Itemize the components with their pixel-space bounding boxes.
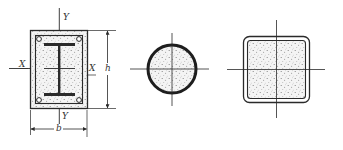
concrete-filled-circular-tube — [130, 33, 209, 106]
composite-sections-diagram — [0, 0, 343, 150]
rebar-top-left — [37, 37, 42, 42]
rebar-bottom-left — [37, 98, 42, 103]
rebar-top-right — [77, 37, 82, 42]
dimension-label-h: h — [104, 64, 112, 73]
axis-label-x-left: X — [19, 60, 25, 69]
axis-label-x-right: X — [89, 64, 95, 73]
dimension-label-b: b — [55, 124, 63, 133]
concrete-filled-square-tube — [227, 20, 325, 118]
axis-label-y-top: Y — [63, 13, 69, 22]
axis-label-y-bottom: Y — [62, 112, 68, 121]
rebar-bottom-right — [77, 98, 82, 103]
